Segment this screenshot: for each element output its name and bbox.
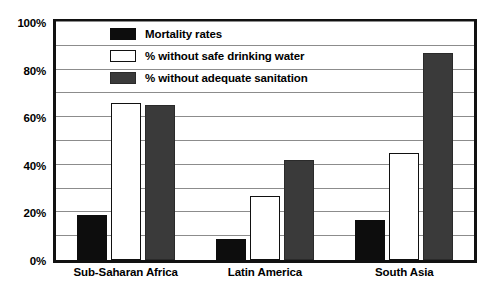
bar-chart: 100%80%60%40%20%0% Sub-Saharan AfricaLat…	[0, 0, 487, 293]
bar	[423, 53, 453, 260]
bar	[284, 160, 314, 260]
y-tick-label: 40%	[0, 160, 46, 172]
legend-swatch-gray	[110, 72, 136, 84]
chart-legend: Mortality rates% without safe drinking w…	[110, 23, 350, 89]
x-tick-label: Sub-Saharan Africa	[56, 266, 195, 278]
x-tick-label: South Asia	[335, 266, 474, 278]
legend-item: % without safe drinking water	[110, 45, 350, 66]
bar	[111, 103, 141, 260]
bar	[389, 153, 419, 260]
y-tick-label: 100%	[0, 17, 46, 29]
bar	[77, 215, 107, 260]
legend-swatch-white	[110, 50, 136, 62]
y-tick-label: 0%	[0, 255, 46, 267]
x-axis: Sub-Saharan AfricaLatin AmericaSouth Asi…	[53, 266, 477, 290]
y-tick-label: 80%	[0, 65, 46, 77]
legend-item-label: % without safe drinking water	[145, 50, 304, 62]
bar	[145, 105, 175, 260]
bar	[216, 239, 246, 260]
legend-swatch-black	[110, 28, 136, 40]
legend-item: Mortality rates	[110, 23, 350, 44]
legend-item-label: Mortality rates	[145, 28, 222, 40]
legend-item: % without adequate sanitation	[110, 67, 350, 88]
bar	[355, 220, 385, 260]
bar-group	[335, 22, 474, 260]
y-tick-label: 20%	[0, 207, 46, 219]
y-tick-label: 60%	[0, 112, 46, 124]
x-tick-label: Latin America	[195, 266, 334, 278]
legend-item-label: % without adequate sanitation	[145, 72, 308, 84]
bar	[250, 196, 280, 260]
